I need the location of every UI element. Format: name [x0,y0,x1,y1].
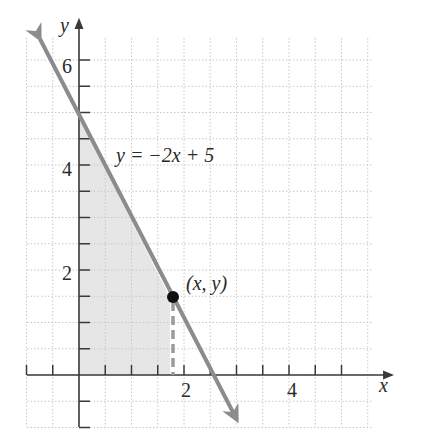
tick-label-x-2: 2 [181,379,191,401]
point-xy [167,291,179,303]
tick-label-x-4: 4 [287,379,297,401]
graph: y x 6 4 2 2 4 y = −2x + 5 (x, y) [0,0,421,447]
tick-label-y-6: 6 [62,55,72,77]
x-axis-label: x [378,374,388,396]
equation-label: y = −2x + 5 [114,144,214,167]
point-label: (x, y) [186,272,227,295]
y-axis-label: y [58,14,69,37]
tick-label-y-2: 2 [62,262,72,284]
tick-label-y-4: 4 [62,158,72,180]
